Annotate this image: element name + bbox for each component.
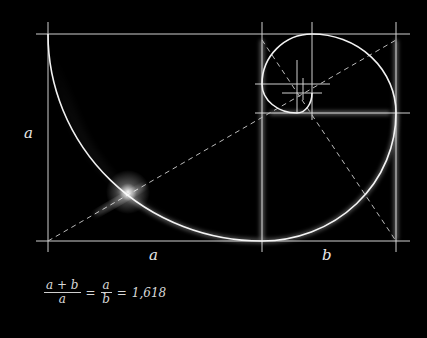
ratio-value: 1,618 [132,286,166,300]
arc-shading [48,34,262,241]
numerator: a [101,279,112,293]
denominator: b [102,293,110,306]
label-bottom-a: a [149,246,158,264]
numerator: a + b [44,279,81,293]
construction-lines [36,22,410,252]
label-side-a: a [24,124,33,142]
denominator: a [59,293,66,306]
fraction-a-over-b: a b [101,279,112,306]
equals-sign: = [86,286,96,300]
equals-sign: = [117,286,127,300]
fraction-a-plus-b-over-a: a + b a [44,279,81,306]
label-bottom-b: b [322,246,332,264]
golden-ratio-formula: a + b a = a b = 1,618 [44,279,166,306]
